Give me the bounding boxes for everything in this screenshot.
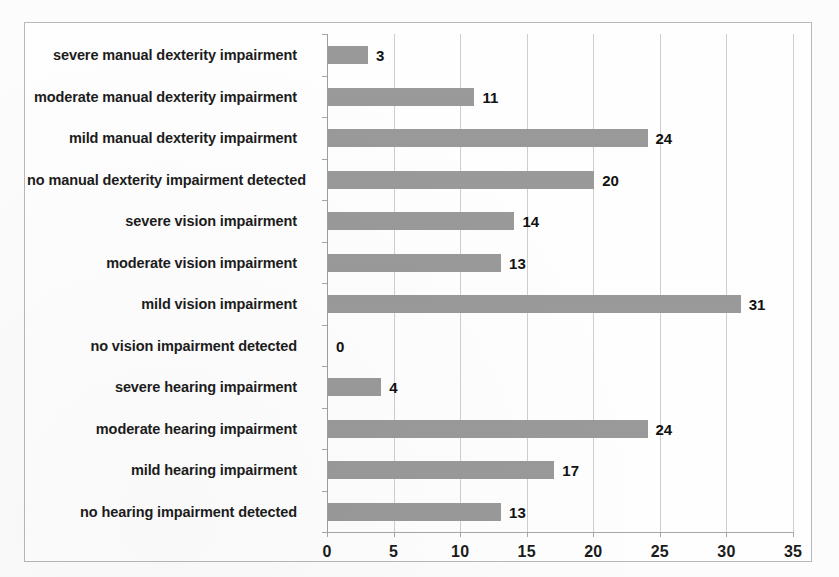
bar-row: severe hearing impairment4 xyxy=(25,366,811,408)
bar-value-label: 14 xyxy=(522,213,539,230)
bar xyxy=(328,212,514,230)
x-axis-tick xyxy=(327,532,328,537)
category-axis-tick xyxy=(322,449,327,450)
bar-row: mild vision impairment31 xyxy=(25,283,811,325)
bar-row: no hearing impairment detected13 xyxy=(25,491,811,533)
bar-value-label: 20 xyxy=(602,172,619,189)
x-axis-tick xyxy=(593,532,594,537)
bar xyxy=(328,254,501,272)
bar xyxy=(328,46,368,64)
bar-value-label: 0 xyxy=(336,338,344,355)
bar xyxy=(328,378,381,396)
bar-value-label: 17 xyxy=(562,462,579,479)
bar xyxy=(328,420,648,438)
chart-screenshot: severe manual dexterity impairment3moder… xyxy=(0,0,839,577)
category-axis-tick xyxy=(322,117,327,118)
bar-value-label: 24 xyxy=(656,421,673,438)
x-axis-tick-label: 15 xyxy=(518,543,536,561)
x-axis-tick-label: 25 xyxy=(651,543,669,561)
bar-value-label: 3 xyxy=(376,47,384,64)
x-axis-line xyxy=(327,532,794,533)
bar-row: mild manual dexterity impairment24 xyxy=(25,117,811,159)
bar-value-label: 31 xyxy=(749,296,766,313)
category-axis-tick xyxy=(322,491,327,492)
bar-row: severe vision impairment14 xyxy=(25,200,811,242)
category-axis-tick xyxy=(322,34,327,35)
bar xyxy=(328,129,648,147)
bar-row: moderate manual dexterity impairment11 xyxy=(25,76,811,118)
bar-value-label: 24 xyxy=(656,130,673,147)
bar-row: no vision impairment detected0 xyxy=(25,325,811,367)
x-axis-tick-label: 30 xyxy=(717,543,735,561)
chart-plot-frame: severe manual dexterity impairment3moder… xyxy=(24,22,812,562)
category-axis-tick xyxy=(322,200,327,201)
x-axis-tick xyxy=(394,532,395,537)
bar-row: moderate hearing impairment24 xyxy=(25,408,811,450)
category-label: moderate hearing impairment xyxy=(27,421,297,437)
category-label: mild manual dexterity impairment xyxy=(27,130,297,146)
category-label: severe manual dexterity impairment xyxy=(27,47,297,63)
bar xyxy=(328,171,594,189)
category-axis-tick xyxy=(322,242,327,243)
x-axis-tick xyxy=(726,532,727,537)
category-label: mild vision impairment xyxy=(27,296,297,312)
x-axis-tick xyxy=(460,532,461,537)
category-axis-tick xyxy=(322,76,327,77)
bar-row: moderate vision impairment13 xyxy=(25,242,811,284)
category-axis-tick xyxy=(322,159,327,160)
bar xyxy=(328,295,741,313)
category-label: moderate vision impairment xyxy=(27,255,297,271)
bar-value-label: 4 xyxy=(389,379,397,396)
category-label: severe vision impairment xyxy=(27,213,297,229)
category-label: moderate manual dexterity impairment xyxy=(27,89,297,105)
x-axis-tick-label: 5 xyxy=(389,543,398,561)
bar-row: mild hearing impairment17 xyxy=(25,449,811,491)
bar xyxy=(328,88,474,106)
bar-row: no manual dexterity impairment detected2… xyxy=(25,159,811,201)
category-axis-tick xyxy=(322,325,327,326)
category-label: no vision impairment detected xyxy=(27,338,297,354)
bar-value-label: 11 xyxy=(482,89,498,106)
category-axis-tick xyxy=(322,283,327,284)
x-axis-tick xyxy=(660,532,661,537)
category-label: no manual dexterity impairment detected xyxy=(27,172,297,188)
bar xyxy=(328,461,554,479)
x-axis-tick-label: 35 xyxy=(784,543,802,561)
x-axis-tick-label: 0 xyxy=(322,543,331,561)
category-label: severe hearing impairment xyxy=(27,379,297,395)
category-label: mild hearing impairment xyxy=(27,462,297,478)
bar-value-label: 13 xyxy=(509,504,526,521)
bar-value-label: 13 xyxy=(509,255,526,272)
x-axis-tick xyxy=(793,532,794,537)
x-axis-tick-label: 20 xyxy=(584,543,602,561)
category-axis-tick xyxy=(322,366,327,367)
bar-row: severe manual dexterity impairment3 xyxy=(25,34,811,76)
x-axis-tick xyxy=(527,532,528,537)
category-label: no hearing impairment detected xyxy=(27,504,297,520)
bar xyxy=(328,503,501,521)
x-axis-tick-label: 10 xyxy=(451,543,469,561)
category-axis-tick xyxy=(322,408,327,409)
